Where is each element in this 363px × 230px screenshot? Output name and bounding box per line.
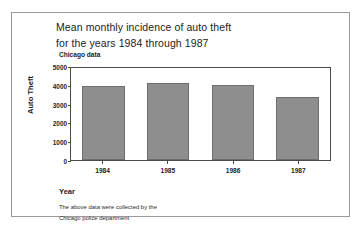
chart-figure: Mean monthly incidence of auto theft for…	[11, 12, 350, 217]
y-tick-label: 5000	[53, 64, 67, 71]
x-tick-mark	[233, 161, 234, 164]
x-tick-mark	[298, 161, 299, 164]
x-tick: 1986	[201, 161, 266, 177]
y-tick-label: 3000	[53, 101, 67, 108]
y-tick-label: 1000	[53, 139, 67, 146]
plot-area	[70, 67, 331, 161]
x-tick-label: 1984	[95, 167, 110, 174]
y-tick-label: 2000	[53, 120, 67, 127]
footnote-line-1: The above data were collected by the	[59, 204, 157, 210]
y-tick-label: 0	[63, 158, 67, 165]
y-tick-label: 4000	[53, 82, 67, 89]
x-tick-label: 1987	[291, 167, 306, 174]
bar-slot	[265, 68, 330, 160]
bar-slot	[136, 68, 201, 160]
x-tick: 1987	[266, 161, 331, 177]
chart-subtitle: Chicago data	[59, 51, 100, 58]
x-tick-mark	[167, 161, 168, 164]
y-axis: 5000 4000 3000 2000 1000 0	[32, 67, 67, 161]
bar-slot	[71, 68, 136, 160]
title-line-1: Mean monthly incidence of auto theft	[56, 19, 336, 35]
footnote-line-2: Chicago police department	[59, 215, 129, 221]
x-tick: 1985	[135, 161, 200, 177]
bar	[147, 83, 190, 160]
bar-slot	[201, 68, 266, 160]
bar	[212, 85, 255, 160]
x-tick-label: 1985	[161, 167, 176, 174]
bar-series	[71, 68, 330, 160]
bar	[82, 86, 125, 160]
bar	[276, 97, 319, 160]
chart-title: Mean monthly incidence of auto theft for…	[56, 19, 336, 51]
y-axis-title: Auto Theft	[26, 76, 35, 114]
x-axis-title: Year	[59, 187, 75, 196]
x-tick-label: 1986	[226, 167, 241, 174]
x-tick-mark	[102, 161, 103, 164]
title-line-2: for the years 1984 through 1987	[56, 35, 336, 51]
x-tick: 1984	[70, 161, 135, 177]
x-axis: 1984 1985 1986 1987	[70, 161, 331, 177]
